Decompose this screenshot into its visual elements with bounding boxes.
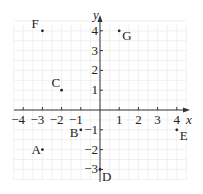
- x-tick-label: −4: [11, 112, 25, 127]
- y-tick-label: −3: [84, 161, 98, 176]
- point-c: [60, 89, 63, 92]
- point-a: [41, 148, 44, 151]
- point-label-a: A: [31, 142, 41, 157]
- y-tick-label: 3: [92, 43, 99, 58]
- y-tick-label: −2: [84, 142, 98, 157]
- x-tick-label: −2: [50, 112, 64, 127]
- x-tick-label: −3: [30, 112, 44, 127]
- x-tick-label: 4: [174, 112, 181, 127]
- point-label-b: B: [70, 125, 79, 140]
- point-label-e: E: [180, 128, 188, 143]
- point-g: [118, 29, 121, 32]
- y-tick-label: 1: [92, 82, 99, 97]
- x-axis-label: x: [185, 112, 192, 127]
- coordinate-plane: x y −4−3−2−112344321−1−2−3 ABCDEFG: [0, 0, 203, 194]
- y-axis-label: y: [91, 7, 99, 22]
- y-tick-label: 2: [92, 62, 99, 77]
- point-f: [41, 29, 44, 32]
- y-tick-label: 4: [92, 23, 99, 38]
- point-d: [99, 168, 102, 171]
- point-label-g: G: [122, 28, 131, 43]
- x-tick-label: 3: [154, 112, 161, 127]
- point-e: [175, 128, 178, 131]
- point-label-f: F: [31, 16, 38, 31]
- point-label-c: C: [52, 75, 61, 90]
- x-tick-label: 2: [135, 112, 142, 127]
- point-label-d: D: [102, 169, 111, 184]
- point-b: [79, 128, 82, 131]
- y-tick-label: −1: [84, 122, 98, 137]
- x-tick-label: 1: [116, 112, 123, 127]
